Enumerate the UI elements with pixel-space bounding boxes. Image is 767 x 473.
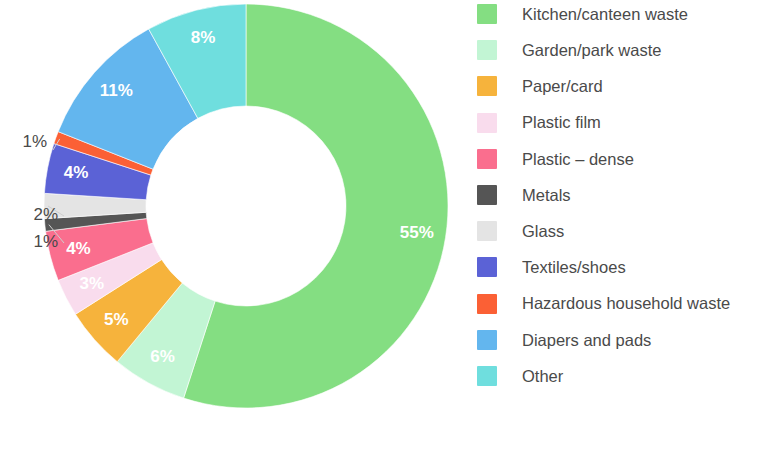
slice-value-label: 1% bbox=[22, 132, 47, 151]
chart-legend: Kitchen/canteen wasteGarden/park wastePa… bbox=[470, 0, 767, 400]
legend-item[interactable]: Plastic – dense bbox=[470, 147, 634, 171]
legend-color-swatch bbox=[477, 330, 497, 350]
waste-composition-chart-page: { "chart_data": { "type": "pie", "subtyp… bbox=[0, 0, 767, 473]
legend-item[interactable]: Textiles/shoes bbox=[470, 255, 626, 279]
slice-value-label: 5% bbox=[104, 310, 129, 329]
legend-item-label: Glass bbox=[522, 223, 564, 240]
legend-item-label: Kitchen/canteen waste bbox=[522, 6, 688, 23]
slice-value-label: 3% bbox=[80, 274, 105, 293]
legend-item-label: Plastic film bbox=[522, 114, 601, 131]
legend-item[interactable]: Paper/card bbox=[470, 74, 603, 98]
legend-item-label: Metals bbox=[522, 187, 571, 204]
slice-value-label: 11% bbox=[100, 81, 133, 100]
legend-item-label: Diapers and pads bbox=[522, 332, 651, 349]
slice-value-label: 1% bbox=[33, 232, 58, 251]
legend-item-label: Hazardous household waste bbox=[522, 295, 730, 312]
legend-color-swatch bbox=[477, 4, 497, 24]
legend-item[interactable]: Garden/park waste bbox=[470, 38, 661, 62]
slice-value-label: 2% bbox=[33, 205, 58, 224]
legend-item[interactable]: Glass bbox=[470, 219, 564, 243]
slice-value-label: 4% bbox=[64, 163, 89, 182]
slice-value-label: 4% bbox=[66, 239, 91, 258]
legend-item-label: Other bbox=[522, 368, 563, 385]
legend-item[interactable]: Metals bbox=[470, 183, 571, 207]
legend-color-swatch bbox=[477, 113, 497, 133]
legend-item[interactable]: Diapers and pads bbox=[470, 328, 651, 352]
legend-item[interactable]: Plastic film bbox=[470, 111, 601, 135]
donut-chart: 55%6%5%3%4%1%2%4%1%11%8% bbox=[0, 0, 460, 440]
legend-item[interactable]: Hazardous household waste bbox=[470, 292, 730, 316]
legend-item[interactable]: Kitchen/canteen waste bbox=[470, 2, 688, 26]
slice-value-label: 8% bbox=[191, 28, 216, 47]
legend-item-label: Paper/card bbox=[522, 78, 603, 95]
donut-chart-svg: 55%6%5%3%4%1%2%4%1%11%8% bbox=[0, 0, 460, 440]
legend-color-swatch bbox=[477, 366, 497, 386]
legend-color-swatch bbox=[477, 149, 497, 169]
legend-color-swatch bbox=[477, 221, 497, 241]
legend-color-swatch bbox=[477, 40, 497, 60]
legend-item-label: Garden/park waste bbox=[522, 42, 661, 59]
slice-value-label: 6% bbox=[150, 347, 175, 366]
donut-slices bbox=[44, 4, 448, 408]
legend-color-swatch bbox=[477, 257, 497, 277]
legend-color-swatch bbox=[477, 294, 497, 314]
legend-item-label: Plastic – dense bbox=[522, 151, 634, 168]
legend-color-swatch bbox=[477, 185, 497, 205]
legend-item[interactable]: Other bbox=[470, 364, 563, 388]
legend-color-swatch bbox=[477, 76, 497, 96]
legend-item-label: Textiles/shoes bbox=[522, 259, 626, 276]
slice-value-label: 55% bbox=[400, 223, 434, 242]
